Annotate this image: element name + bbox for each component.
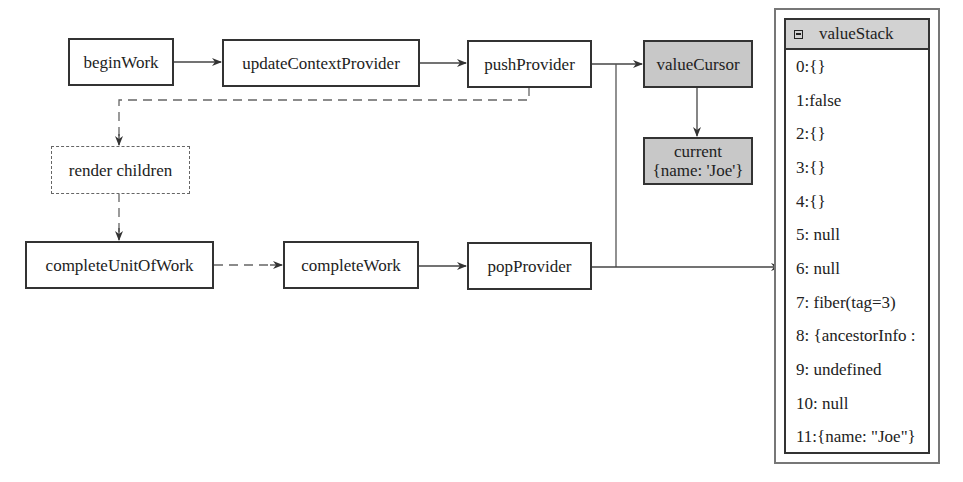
- stack-item: 4:{}: [786, 185, 928, 219]
- push-provider-node: pushProvider: [467, 40, 592, 88]
- pop-provider-node: popProvider: [467, 242, 592, 290]
- update-context-provider-node: updateContextProvider: [222, 39, 420, 87]
- value-stack-header: valueStack: [786, 20, 928, 50]
- stack-item: 6: null: [786, 252, 928, 286]
- stack-item: 7: fiber(tag=3): [786, 286, 928, 320]
- render-children-label: render children: [69, 161, 172, 180]
- value-stack-title: valueStack: [819, 24, 894, 44]
- value-stack-panel: valueStack 0:{} 1:false 2:{} 3:{} 4:{} 5…: [774, 8, 940, 464]
- collapse-icon[interactable]: [794, 30, 803, 39]
- stack-item: 11:{name: "Joe"}: [786, 421, 928, 455]
- stack-item: 0:{}: [786, 50, 928, 84]
- current-label: current: [674, 142, 722, 161]
- stack-item: 8: {ancestorInfo :: [786, 320, 928, 354]
- complete-work-node: completeWork: [283, 241, 419, 289]
- stack-item: 10: null: [786, 387, 928, 421]
- complete-work-label: completeWork: [301, 256, 401, 275]
- complete-unit-of-work-node: completeUnitOfWork: [25, 241, 214, 289]
- stack-item: 5: null: [786, 218, 928, 252]
- current-value: {name: 'Joe'}: [653, 161, 744, 180]
- push-provider-label: pushProvider: [484, 55, 575, 74]
- stack-item: 1:false: [786, 84, 928, 118]
- update-context-provider-label: updateContextProvider: [242, 54, 400, 73]
- stack-item: 2:{}: [786, 117, 928, 151]
- begin-work-node: beginWork: [68, 38, 174, 86]
- pop-provider-label: popProvider: [487, 257, 571, 276]
- begin-work-label: beginWork: [83, 53, 158, 72]
- render-children-node: render children: [51, 146, 190, 194]
- value-stack-list: valueStack 0:{} 1:false 2:{} 3:{} 4:{} 5…: [784, 18, 930, 454]
- current-node: current {name: 'Joe'}: [643, 137, 753, 185]
- complete-unit-of-work-label: completeUnitOfWork: [46, 256, 194, 275]
- stack-item: 9: undefined: [786, 353, 928, 387]
- value-cursor-label: valueCursor: [656, 55, 739, 74]
- stack-item: 3:{}: [786, 151, 928, 185]
- value-cursor-node: valueCursor: [643, 40, 753, 88]
